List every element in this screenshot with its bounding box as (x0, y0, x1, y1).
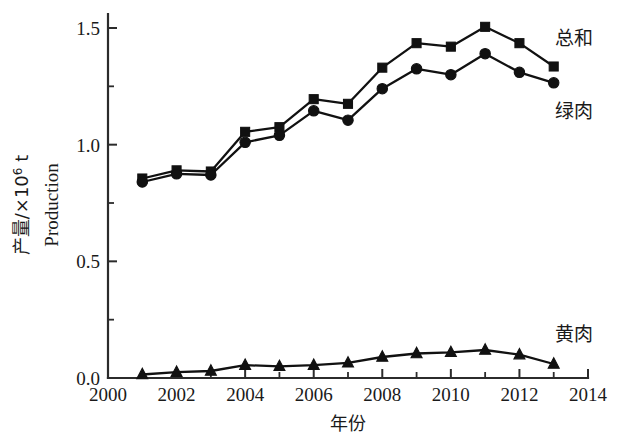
marker-circle (549, 78, 559, 88)
marker-circle (514, 67, 524, 77)
marker-circle (343, 115, 353, 125)
chart-page: 0.00.51.01.5 200020022004200620082010201… (0, 0, 625, 439)
y-axis-ticks (108, 28, 117, 378)
axis-group: 0.00.51.01.5 200020022004200620082010201… (76, 14, 607, 405)
series-green (137, 48, 559, 187)
marker-square (241, 127, 250, 136)
marker-circle (480, 48, 490, 58)
marker-circle (171, 169, 181, 179)
series-label-green: 绿肉 (555, 100, 593, 122)
marker-square (412, 39, 421, 48)
marker-square (344, 99, 353, 108)
x-tick-label: 2012 (500, 384, 538, 405)
x-tick-label: 2014 (569, 384, 608, 405)
marker-circle (274, 130, 284, 140)
y-tick-label: 1.0 (76, 135, 100, 156)
x-axis-title: 年份 (330, 413, 366, 434)
marker-circle (446, 69, 456, 79)
x-tick-label: 2004 (226, 384, 265, 405)
marker-circle (411, 64, 421, 74)
x-axis-tick-labels: 20002002200420062008201020122014 (89, 384, 608, 405)
marker-circle (137, 177, 147, 187)
y-axis-tick-labels: 0.00.51.01.5 (76, 18, 100, 389)
x-tick-label: 2002 (158, 384, 196, 405)
marker-circle (377, 83, 387, 93)
y-tick-label: 0.5 (76, 251, 100, 272)
y-axis-title-en: Production (41, 163, 62, 247)
x-tick-label: 2000 (89, 384, 127, 405)
production-line-chart: 0.00.51.01.5 200020022004200620082010201… (0, 0, 625, 439)
series-label-yellow: 黄肉 (555, 323, 593, 345)
x-tick-label: 2008 (363, 384, 401, 405)
marker-square (549, 62, 558, 71)
marker-triangle (480, 344, 491, 354)
marker-square (446, 42, 455, 51)
y-tick-label: 1.5 (76, 18, 100, 39)
marker-square (309, 95, 318, 104)
marker-circle (206, 170, 216, 180)
marker-circle (309, 106, 319, 116)
x-tick-label: 2006 (295, 384, 333, 405)
marker-circle (240, 137, 250, 147)
series-labels-group: 总和 绿肉 黄肉 (555, 27, 593, 345)
data-series-group (137, 22, 559, 378)
marker-square (481, 22, 490, 31)
y-axis-title-cjk: 产量/×106 t (11, 155, 32, 255)
x-tick-label: 2010 (432, 384, 470, 405)
series-label-total: 总和 (555, 27, 593, 49)
marker-square (378, 63, 387, 72)
marker-square (515, 39, 524, 48)
series-total (138, 22, 558, 183)
